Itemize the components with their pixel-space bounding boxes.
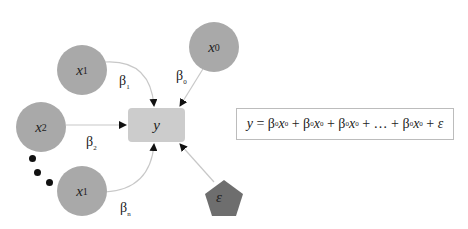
epsilon-node-shape xyxy=(205,180,243,216)
weight-beta2-sub: 2 xyxy=(93,144,97,152)
eq-error: ε xyxy=(438,116,444,132)
node-xn-sub: 1 xyxy=(83,186,88,197)
node-x0-sub: 0 xyxy=(215,42,220,53)
weight-betan: βn xyxy=(120,200,131,218)
node-x2-label: x xyxy=(35,119,42,136)
eq-plus: + xyxy=(423,116,438,132)
weight-betan-sub: n xyxy=(127,210,131,218)
weight-beta0-sub: 0 xyxy=(183,78,187,86)
ellipsis-dot xyxy=(46,179,53,186)
node-y-label: y xyxy=(153,117,160,134)
weight-beta0: β0 xyxy=(176,68,187,86)
eq-plus: + xyxy=(323,116,338,132)
node-x1-label: x xyxy=(76,62,83,79)
node-x0-label: x xyxy=(208,39,215,56)
ellipsis-dot xyxy=(29,155,36,162)
eq-plus: + xyxy=(388,116,403,132)
node-x2: x2 xyxy=(16,102,66,152)
node-xn-label: x xyxy=(76,183,83,200)
weight-beta2: β2 xyxy=(86,134,97,152)
eq-equals: = xyxy=(253,116,268,132)
eq-term-coef: β xyxy=(403,116,410,132)
node-epsilon-label: ε xyxy=(216,189,222,206)
edge-epsilon-to-y xyxy=(180,144,214,182)
eq-term-coef: β xyxy=(338,116,345,132)
ellipsis-dot xyxy=(34,169,41,176)
weight-beta1-sub: 1 xyxy=(126,83,130,91)
regression-equation: y = β0x0 + β0x0 + β0x0 + … + β0x0 + ε xyxy=(236,108,454,140)
eq-plus: + xyxy=(288,116,303,132)
node-x2-sub: 2 xyxy=(42,122,47,133)
node-x1-sub: 1 xyxy=(83,65,88,76)
edge-xn-to-y xyxy=(105,144,154,192)
node-x0: x0 xyxy=(189,22,239,72)
node-x1-bottom: x1 xyxy=(57,166,107,216)
eq-plus: + xyxy=(359,116,374,132)
node-y: y xyxy=(128,108,185,142)
eq-term-coef: β xyxy=(268,116,275,132)
eq-term-coef: β xyxy=(303,116,310,132)
weight-beta1: β1 xyxy=(119,73,130,91)
eq-ellipsis: … xyxy=(374,116,388,132)
node-x1-top: x1 xyxy=(57,45,107,95)
regression-diagram: x0 x1 x2 x1 y ε β1 β0 β2 βn y = β0x0 + β… xyxy=(0,0,468,229)
